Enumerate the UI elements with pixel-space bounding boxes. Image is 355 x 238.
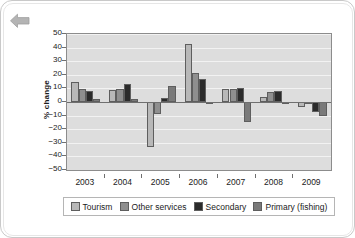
legend-swatch-icon: [194, 202, 203, 211]
y-tick-mark: [62, 128, 66, 129]
bar-other-services-2008: [267, 92, 274, 102]
y-axis-ticks: 50403020100−10−20−30−40−50: [31, 33, 62, 171]
y-tick-label: −40: [34, 151, 62, 159]
x-tick-mark: [255, 174, 256, 178]
y-tick-mark: [62, 101, 66, 102]
bar-tourism-2004: [109, 90, 116, 102]
y-tick-mark: [62, 155, 66, 156]
legend-swatch-icon: [253, 202, 262, 211]
bar-secondary-2006: [199, 79, 206, 102]
bar-primary-fishing-2009: [319, 102, 326, 116]
gridline: [67, 61, 331, 62]
gridline: [67, 156, 331, 157]
chart: % change 50403020100−10−20−30−40−50 2003…: [15, 27, 345, 232]
bar-other-services-2005: [154, 102, 161, 114]
chart-legend: TourismOther servicesSecondaryPrimary (f…: [63, 197, 335, 216]
bar-secondary-2008: [274, 91, 281, 102]
x-tick-mark: [292, 174, 293, 178]
y-tick-label: 50: [34, 29, 62, 37]
y-tick-mark: [62, 74, 66, 75]
bar-secondary-2007: [237, 88, 244, 102]
legend-label: Secondary: [206, 202, 247, 212]
y-tick-mark: [62, 87, 66, 88]
gridline: [67, 34, 331, 35]
bar-tourism-2007: [222, 89, 229, 102]
y-tick-mark: [62, 142, 66, 143]
x-axis-ticks: 2003200420052006200720082009: [66, 174, 332, 190]
bar-primary-fishing-2007: [244, 102, 251, 122]
legend-label: Primary (fishing): [265, 202, 327, 212]
legend-item-tourism[interactable]: Tourism: [71, 202, 113, 212]
bar-tourism-2005: [147, 102, 154, 147]
y-tick-mark: [62, 60, 66, 61]
bar-tourism-2003: [71, 82, 78, 102]
bar-other-services-2004: [116, 89, 123, 102]
x-tick-mark: [141, 174, 142, 178]
y-tick-label: 0: [34, 97, 62, 105]
x-tick-label-2005: 2005: [141, 177, 179, 187]
legend-item-secondary[interactable]: Secondary: [194, 202, 247, 212]
x-tick-mark: [217, 174, 218, 178]
gridline: [67, 170, 331, 171]
y-tick-mark: [62, 33, 66, 34]
legend-swatch-icon: [71, 202, 80, 211]
legend-swatch-icon: [120, 202, 129, 211]
y-tick-label: −10: [34, 111, 62, 119]
legend-label: Other services: [132, 202, 187, 212]
gridline: [67, 48, 331, 49]
y-tick-mark: [62, 115, 66, 116]
y-tick-mark: [62, 47, 66, 48]
x-tick-mark: [179, 174, 180, 178]
zero-line: [67, 102, 331, 103]
legend-item-other-services[interactable]: Other services: [120, 202, 187, 212]
x-tick-label-2008: 2008: [255, 177, 293, 187]
y-tick-mark: [62, 169, 66, 170]
x-tick-mark: [104, 174, 105, 178]
y-tick-label: 10: [34, 83, 62, 91]
y-tick-label: 20: [34, 70, 62, 78]
bar-secondary-2009: [312, 102, 319, 112]
x-tick-label-2006: 2006: [179, 177, 217, 187]
y-tick-label: 30: [34, 56, 62, 64]
gridline: [67, 75, 331, 76]
bar-tourism-2006: [185, 44, 192, 102]
plot-area: [66, 33, 332, 171]
y-tick-label: 40: [34, 43, 62, 51]
legend-item-primary-fishing[interactable]: Primary (fishing): [253, 202, 327, 212]
bar-primary-fishing-2005: [168, 86, 175, 102]
legend-label: Tourism: [83, 202, 113, 212]
bar-other-services-2006: [192, 73, 199, 102]
x-tick-label-2003: 2003: [66, 177, 104, 187]
gridline: [67, 129, 331, 130]
bar-secondary-2004: [124, 84, 131, 102]
bar-other-services-2007: [230, 89, 237, 102]
y-tick-label: −50: [34, 165, 62, 173]
y-tick-label: −20: [34, 124, 62, 132]
chart-panel: % change 50403020100−10−20−30−40−50 2003…: [0, 0, 355, 238]
y-tick-label: −30: [34, 138, 62, 146]
x-tick-label-2007: 2007: [217, 177, 255, 187]
bar-other-services-2003: [79, 89, 86, 102]
x-tick-label-2004: 2004: [104, 177, 142, 187]
x-tick-label-2009: 2009: [292, 177, 330, 187]
bar-secondary-2003: [86, 91, 93, 102]
gridline: [67, 143, 331, 144]
gridline: [67, 116, 331, 117]
